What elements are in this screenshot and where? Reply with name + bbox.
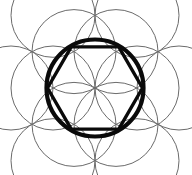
seed-of-life-figure (0, 0, 192, 175)
geometry-canvas (0, 0, 192, 175)
